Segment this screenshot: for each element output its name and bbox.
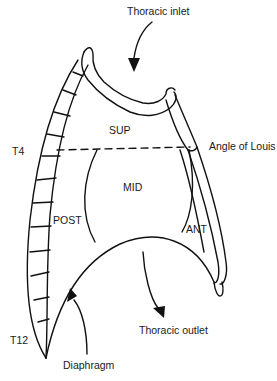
t4-label: T4 (12, 146, 24, 157)
sup-label: SUP (109, 125, 131, 136)
post-label: POST (53, 215, 82, 226)
thoracic-inlet-label: Thoracic inlet (127, 6, 189, 17)
thoracic-inlet-arrow-icon (128, 22, 152, 72)
t12-label: T12 (10, 335, 28, 346)
t4-angle-divider (57, 147, 190, 150)
angle-of-louis-label: Angle of Louis (209, 141, 276, 152)
diaphragm-label: Diaphragm (63, 360, 114, 371)
thoracic-outlet-label: Thoracic outlet (139, 325, 208, 336)
diaphragm-arrow-icon (67, 288, 87, 354)
middle-mediastinum-outline (85, 150, 193, 242)
mid-label: MID (123, 182, 142, 193)
sternum-icon (166, 95, 227, 296)
mediastinum-diagram: Thoracic inlet SUP T4 Angle of Louis MID… (0, 0, 277, 381)
ant-label: ANT (186, 224, 207, 235)
spine-icon (27, 60, 88, 358)
thoracic-outlet-arrow-icon (143, 252, 165, 318)
first-rib-icon (82, 48, 176, 116)
